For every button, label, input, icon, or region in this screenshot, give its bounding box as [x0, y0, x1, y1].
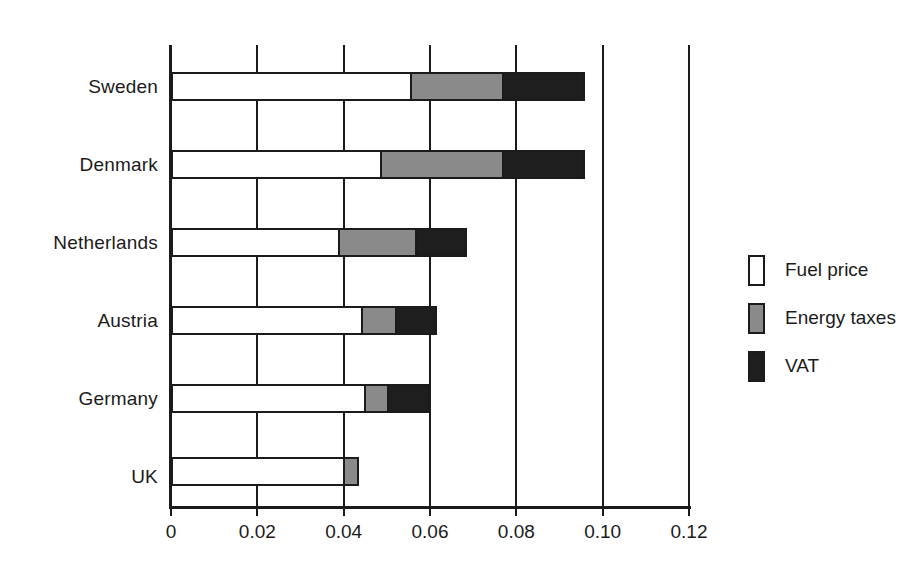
legend-item-fuel-price: Fuel price [748, 246, 908, 294]
chart-legend: Fuel price Energy taxes VAT [748, 246, 908, 390]
category-label-uk: UK [131, 467, 158, 486]
category-label-austria: Austria [97, 311, 158, 330]
category-label-netherlands: Netherlands [53, 233, 158, 252]
bar-segment-denmark-energy-taxes [380, 150, 504, 179]
bar-segment-netherlands-fuel-price [171, 228, 340, 257]
x-tick-label-0.04: 0.04 [325, 521, 362, 543]
legend-swatch-vat [748, 351, 765, 382]
tick-mark-0.06 [429, 500, 431, 516]
bar-segment-uk-energy-taxes [343, 457, 359, 486]
x-tick-label-0: 0 [166, 521, 177, 543]
bar-sweden [171, 72, 583, 101]
x-tick-label-0.08: 0.08 [498, 521, 535, 543]
bar-netherlands [171, 228, 465, 257]
x-tick-label-0.06: 0.06 [412, 521, 449, 543]
legend-label-energy-taxes: Energy taxes [785, 307, 896, 329]
bar-denmark [171, 150, 583, 179]
gridline-0.12 [688, 45, 690, 506]
x-tick-label-0.10: 0.10 [584, 521, 621, 543]
gridline-0.10 [602, 45, 604, 506]
legend-swatch-fuel-price [748, 255, 765, 286]
bar-segment-netherlands-energy-taxes [338, 228, 417, 257]
bar-segment-austria-vat [395, 306, 437, 335]
tick-mark-0.12 [688, 500, 690, 516]
bar-segment-denmark-fuel-price [171, 150, 382, 179]
category-label-sweden: Sweden [88, 77, 158, 96]
bar-austria [171, 306, 435, 335]
tick-mark-0.04 [343, 500, 345, 516]
gridline-0.08 [515, 45, 517, 506]
category-label-germany: Germany [78, 389, 158, 408]
bar-germany [171, 384, 428, 413]
bar-segment-netherlands-vat [415, 228, 467, 257]
bar-segment-germany-energy-taxes [364, 384, 389, 413]
bar-segment-uk-fuel-price [171, 457, 345, 486]
tick-mark-0.10 [602, 500, 604, 516]
tick-mark-0 [170, 500, 172, 516]
bar-segment-germany-fuel-price [171, 384, 366, 413]
bar-segment-sweden-energy-taxes [410, 72, 504, 101]
x-tick-label-0.12: 0.12 [671, 521, 708, 543]
bar-segment-sweden-vat [502, 72, 585, 101]
category-label-denmark: Denmark [80, 155, 158, 174]
bar-segment-denmark-vat [502, 150, 585, 179]
legend-item-vat: VAT [748, 342, 908, 390]
legend-label-fuel-price: Fuel price [785, 259, 868, 281]
bar-segment-austria-fuel-price [171, 306, 363, 335]
legend-item-energy-taxes: Energy taxes [748, 294, 908, 342]
tick-mark-0.08 [515, 500, 517, 516]
gridline-0.02 [256, 45, 258, 506]
bar-uk [171, 457, 357, 486]
gridline-0.04 [343, 45, 345, 506]
bar-segment-austria-energy-taxes [361, 306, 397, 335]
y-axis-line [169, 45, 172, 508]
bar-segment-germany-vat [387, 384, 430, 413]
gridline-0.06 [429, 45, 431, 506]
tick-mark-0.02 [256, 500, 258, 516]
plot-area: 00.020.040.060.080.100.12 [171, 45, 689, 508]
x-tick-label-0.02: 0.02 [239, 521, 276, 543]
stacked-bar-chart: Sweden Denmark Netherlands Austria Germa… [0, 0, 915, 570]
legend-label-vat: VAT [785, 355, 819, 377]
legend-swatch-energy-taxes [748, 303, 765, 334]
bar-segment-sweden-fuel-price [171, 72, 412, 101]
